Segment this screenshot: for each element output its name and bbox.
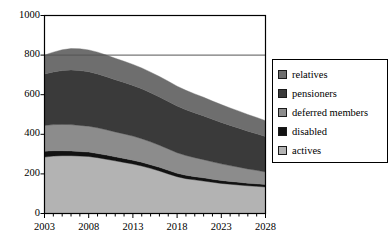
x-tick-label-2023: 2023 — [201, 221, 241, 232]
x-tick-label-2003: 2003 — [25, 221, 65, 232]
legend-label: relatives — [292, 69, 328, 80]
legend-item-pensioners[interactable]: pensioners — [278, 86, 337, 100]
legend-label: pensioners — [292, 88, 337, 99]
legend-item-relatives[interactable]: relatives — [278, 67, 328, 81]
stacked-area-chart: 02004006008001000 2003200820132018202320… — [0, 0, 391, 246]
x-tick-label-2008: 2008 — [69, 221, 109, 232]
x-tick-label-2028: 2028 — [246, 221, 286, 232]
legend-swatch-icon-deferred-members — [278, 108, 287, 117]
chart-legend: relativespensionersdeferred membersdisab… — [272, 59, 388, 163]
legend-label: disabled — [292, 126, 327, 137]
x-tick-label-2018: 2018 — [157, 221, 197, 232]
legend-swatch-icon-pensioners — [278, 89, 287, 98]
legend-swatch-icon-disabled — [278, 127, 287, 136]
legend-label: actives — [292, 145, 321, 156]
legend-item-disabled[interactable]: disabled — [278, 124, 327, 138]
legend-item-deferred-members[interactable]: deferred members — [278, 105, 368, 119]
legend-item-actives[interactable]: actives — [278, 143, 321, 157]
legend-label: deferred members — [292, 107, 368, 118]
x-tick-label-2013: 2013 — [113, 221, 153, 232]
legend-swatch-icon-actives — [278, 146, 287, 155]
legend-swatch-icon-relatives — [278, 70, 287, 79]
